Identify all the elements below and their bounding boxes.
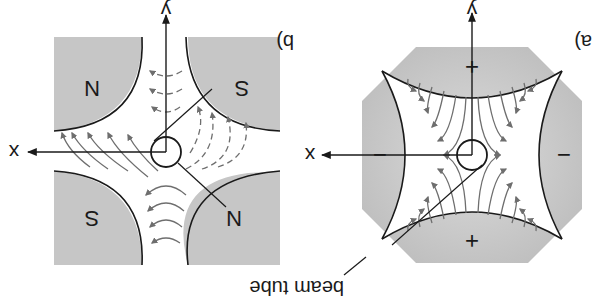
pole-sign-top: + <box>465 228 479 255</box>
pole-label-bl: S <box>235 76 250 101</box>
beam-tube-label: beam tube <box>249 277 344 299</box>
pole-label-tl: N <box>226 206 242 231</box>
panel-b-label: b) <box>276 31 294 53</box>
pole-label-tr: S <box>85 206 100 231</box>
quadrupole-figure: + + − − x y beam tube a) <box>0 0 598 303</box>
y-axis-label-b: y <box>160 0 171 22</box>
panel-a: + + − − x y beam tube a) <box>249 0 592 299</box>
x-axis-label: x <box>304 144 315 167</box>
y-axis-label: y <box>466 0 477 22</box>
beam-tube-pointer-b <box>344 257 366 275</box>
panel-b: N S S N x y b) <box>8 0 294 265</box>
pole-label-br: N <box>84 76 100 101</box>
x-axis-label-b: x <box>8 141 19 164</box>
pole-sign-left: − <box>557 142 571 169</box>
panel-a-label: a) <box>574 31 592 53</box>
